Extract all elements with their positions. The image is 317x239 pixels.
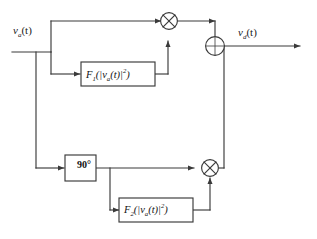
input-signal-label: va(t) [13,25,32,39]
block-f1-label: F1(|va(t)|2) [86,68,130,82]
block-diagram-canvas: va(t) vd(t) F1(|va(t)|2) F2(|va(t)|2) 90… [0,0,317,239]
block-phase-shifter-label: 90° [70,160,98,170]
block-f2-label: F2(|va(t)|2) [124,203,168,217]
output-signal-label: vd(t) [238,27,257,41]
